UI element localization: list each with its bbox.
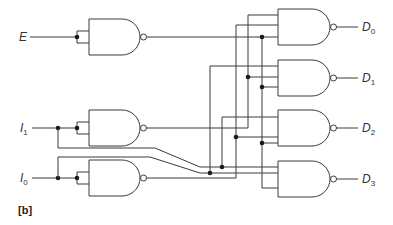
input-label-i0: I0 xyxy=(20,172,28,187)
output-label-d1: D1 xyxy=(362,72,375,87)
nand-gate-e xyxy=(30,19,278,55)
nand-gate-d2 xyxy=(278,110,358,146)
nand-gate-d1 xyxy=(278,60,358,96)
output-label-d3: D3 xyxy=(362,173,375,188)
nand-gate-d0 xyxy=(278,9,358,45)
nand-gate-i1 xyxy=(32,15,278,146)
input-label-e: E xyxy=(19,31,27,43)
figure-label: [b] xyxy=(18,204,32,216)
output-label-d2: D2 xyxy=(362,122,375,137)
nand-gate-i0 xyxy=(32,25,278,196)
nand-gate-d3 xyxy=(278,161,358,197)
input-label-i1: I1 xyxy=(20,122,28,137)
decoder-circuit xyxy=(0,0,393,225)
output-label-d0: D0 xyxy=(362,21,375,36)
